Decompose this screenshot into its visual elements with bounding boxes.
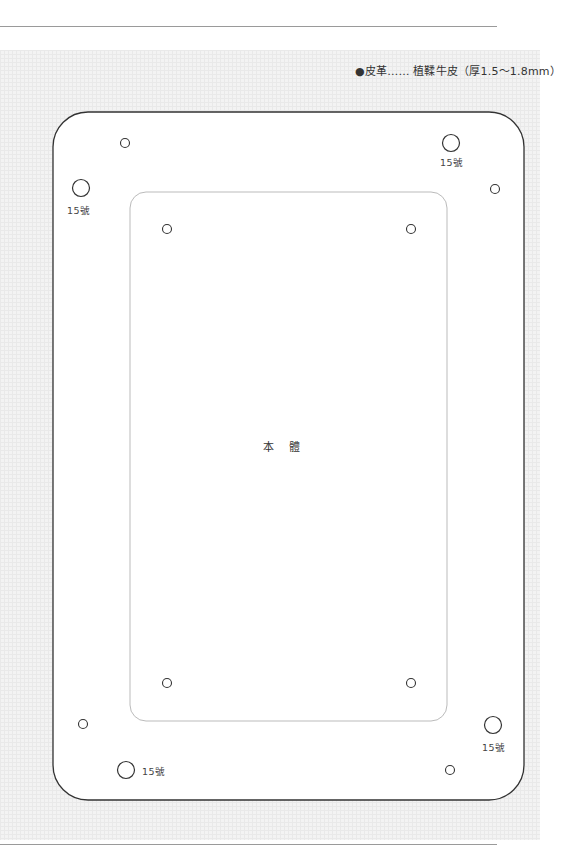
small-hole-icon (163, 225, 172, 234)
leather-pattern-diagram (0, 0, 572, 863)
inner-panel-outline (130, 192, 447, 721)
small-hole-icon (407, 225, 416, 234)
small-hole-icon (79, 720, 88, 729)
small-hole-icon (491, 185, 500, 194)
hole-size-label: 15號 (440, 155, 464, 169)
large-hole-icon (443, 135, 460, 152)
large-hole-icon (118, 762, 135, 779)
hole-size-label: 15號 (142, 764, 166, 778)
hole-size-label: 15號 (482, 740, 506, 754)
small-hole-icon (446, 766, 455, 775)
small-hole-icon (407, 679, 416, 688)
inner-panel-label: 本 體 (263, 438, 307, 454)
small-hole-icon (121, 139, 130, 148)
hole-size-label: 15號 (67, 203, 91, 217)
small-hole-icon (163, 679, 172, 688)
bottom-rule (0, 844, 497, 845)
large-hole-icon (73, 180, 90, 197)
large-hole-icon (485, 717, 502, 734)
